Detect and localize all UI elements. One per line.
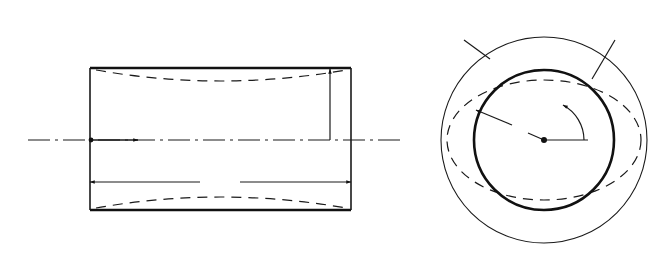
p-leader <box>464 40 490 59</box>
deformed-shape-top <box>96 70 346 81</box>
deformed-shape-bottom <box>96 197 346 208</box>
q-leader <box>592 40 615 79</box>
cylinder-loading-diagram <box>0 0 666 274</box>
radius-leader-arrow <box>476 110 512 125</box>
angle-arc-phi <box>563 105 584 140</box>
side-view <box>28 68 400 210</box>
cross-section-view <box>441 37 647 243</box>
origin-dot <box>89 138 94 143</box>
